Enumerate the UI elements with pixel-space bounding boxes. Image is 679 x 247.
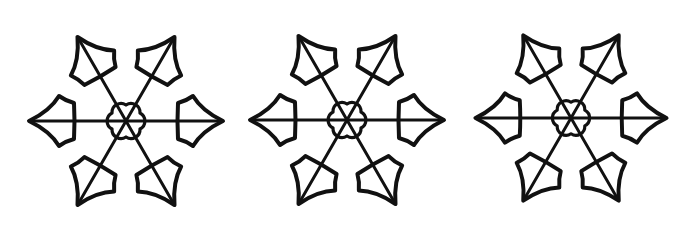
illustration-canvas: Three hand-drawn black-ink snowflakes on… (0, 0, 679, 247)
snowflake-1 (29, 24, 223, 217)
snowflakes-illustration (0, 0, 679, 247)
snowflake-3 (475, 23, 666, 213)
snowflake-2 (250, 23, 444, 216)
